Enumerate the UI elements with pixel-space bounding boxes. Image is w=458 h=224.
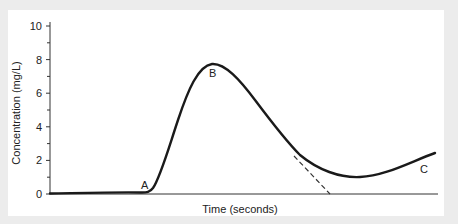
y-tick-10: 10	[30, 20, 42, 32]
point-label-c: C	[420, 163, 428, 175]
y-tick-0: 0	[36, 188, 42, 200]
x-axis-label: Time (seconds)	[202, 203, 277, 215]
y-ticks	[46, 26, 50, 194]
y-tick-2: 2	[36, 154, 42, 166]
extrapolation-dashed-line	[294, 156, 330, 194]
y-tick-4: 4	[36, 121, 42, 133]
y-tick-6: 6	[36, 87, 42, 99]
y-axis-label: Concentration (mg/L)	[10, 61, 22, 164]
y-tick-8: 8	[36, 54, 42, 66]
concentration-curve	[50, 64, 435, 194]
concentration-time-chart: 0 2 4 6 8 10 Concentration (mg/L) Time (…	[0, 0, 458, 224]
y-tick-labels: 0 2 4 6 8 10	[30, 20, 42, 200]
point-label-b: B	[209, 67, 216, 79]
point-label-a: A	[141, 179, 149, 191]
